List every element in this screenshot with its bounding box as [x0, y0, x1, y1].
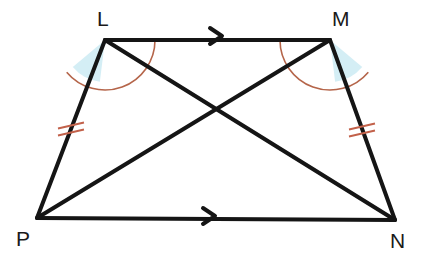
- geometry-diagram: L M N P: [0, 0, 424, 257]
- angle-arcs: [67, 40, 369, 90]
- side-MN: [330, 40, 395, 220]
- side-PN: [37, 218, 395, 220]
- arrow-PN: [203, 208, 215, 224]
- vertex-label-P: P: [16, 227, 30, 250]
- vertex-label-L: L: [97, 7, 109, 30]
- angle-fill-M: [330, 40, 362, 82]
- angle-fill-L: [73, 40, 105, 82]
- side-LP: [37, 40, 105, 218]
- congruence-ticks: [58, 123, 375, 137]
- parallel-arrows: [203, 28, 222, 224]
- vertex-label-M: M: [332, 7, 350, 30]
- vertex-label-N: N: [390, 229, 405, 252]
